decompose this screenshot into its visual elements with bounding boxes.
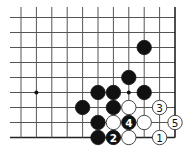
black-stone-icon	[91, 130, 105, 144]
white-stone	[137, 115, 151, 129]
white-stone	[106, 115, 120, 129]
move-number-label: 5	[172, 117, 179, 129]
black-stone-icon	[137, 40, 151, 54]
black-stone	[75, 100, 89, 114]
black-stone-4: 4	[122, 115, 136, 129]
white-stone-5: 5	[168, 115, 182, 129]
white-stone-3: 3	[152, 100, 166, 114]
move-number-label: 2	[110, 132, 117, 144]
white-stone	[122, 100, 136, 114]
white-stone	[122, 130, 136, 144]
black-stone-2: 2	[106, 130, 120, 144]
black-stone	[137, 85, 151, 99]
move-number-label: 1	[156, 132, 163, 144]
move-number-label: 3	[156, 102, 163, 114]
black-stone	[106, 85, 120, 99]
black-stone	[122, 70, 136, 84]
go-board-diagram: 34521	[0, 0, 192, 153]
white-stone-icon	[122, 130, 136, 144]
white-stone-1: 1	[152, 130, 166, 144]
black-stone-icon	[75, 100, 89, 114]
black-stone	[91, 85, 105, 99]
black-stone	[91, 115, 105, 129]
black-stone-icon	[137, 85, 151, 99]
white-stone-icon	[137, 115, 151, 129]
black-stone	[137, 40, 151, 54]
star-point-icon	[127, 91, 131, 95]
black-stone-icon	[91, 85, 105, 99]
black-stone	[106, 100, 120, 114]
move-number-label: 4	[125, 117, 132, 129]
black-stone-icon	[106, 100, 120, 114]
white-stone-icon	[106, 115, 120, 129]
black-stone-icon	[106, 85, 120, 99]
black-stone-icon	[91, 115, 105, 129]
black-stone-icon	[122, 70, 136, 84]
star-point-icon	[34, 91, 38, 95]
white-stone-icon	[122, 100, 136, 114]
black-stone	[91, 130, 105, 144]
